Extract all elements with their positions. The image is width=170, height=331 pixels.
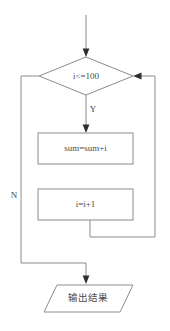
branch-label-yes: Y (90, 104, 97, 114)
flowchart-svg: i<=100 Y sum=sum+i i=i+1 N 输出结果 (0, 0, 170, 331)
branch-label-no: N (11, 190, 18, 200)
arrow-yes-icon (83, 125, 90, 134)
process-sum-label: sum=sum+i (64, 143, 107, 153)
flowchart-canvas: i<=100 Y sum=sum+i i=i+1 N 输出结果 (0, 0, 170, 331)
connector-no (21, 76, 86, 277)
arrow-entry-icon (83, 49, 90, 58)
output-label: 输出结果 (68, 292, 108, 303)
arrow-loopback-icon (133, 73, 142, 80)
process-increment-label: i=i+1 (76, 199, 96, 209)
decision-label: i<=100 (73, 71, 100, 81)
arrow-no-icon (83, 276, 90, 285)
